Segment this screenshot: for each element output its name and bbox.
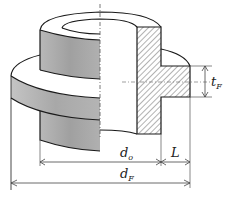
dimension-d-F (11, 180, 190, 186)
hatched-cross-section (137, 27, 190, 134)
label-t-F: tF (211, 74, 222, 91)
label-d-o: do (120, 145, 133, 162)
flanged-hub-diagram: do L dF tF (0, 0, 226, 199)
label-d-F: dF (120, 166, 134, 183)
label-L: L (170, 145, 180, 160)
dimension-d-o (40, 159, 161, 165)
dimension-t-F (202, 66, 208, 97)
